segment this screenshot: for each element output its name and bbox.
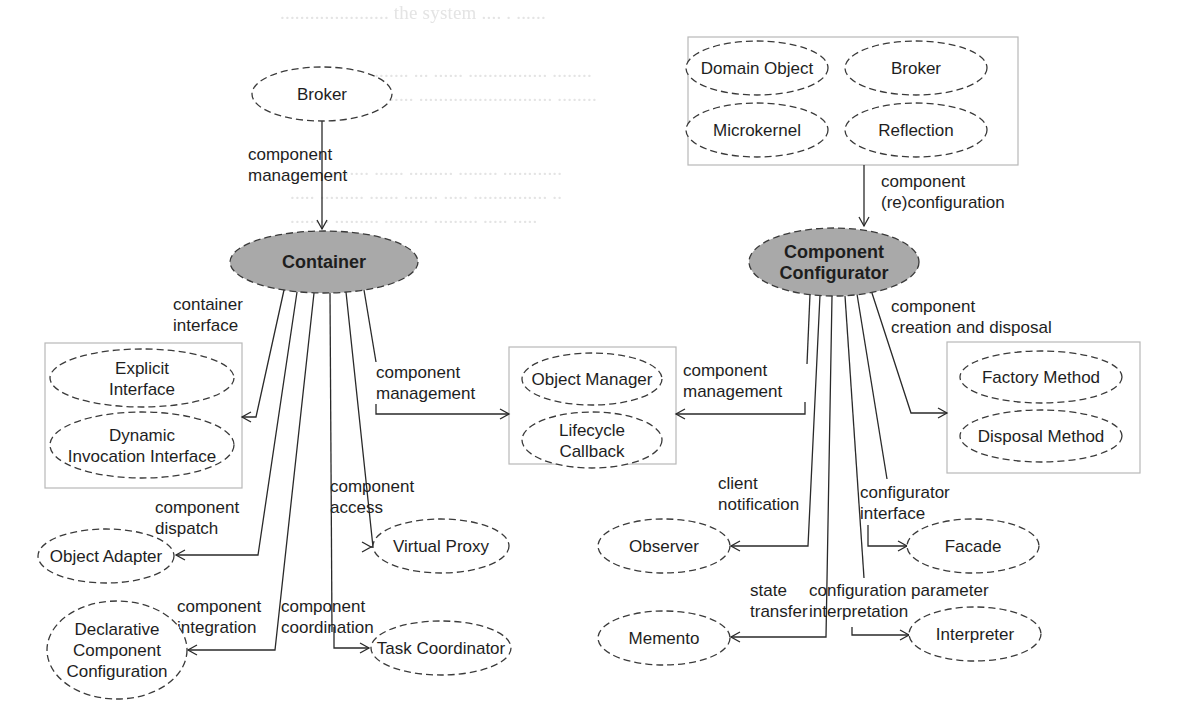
node-facade: Facade [907, 519, 1039, 573]
node-label: Disposal Method [978, 427, 1105, 446]
node-object-manager: Object Manager [522, 353, 662, 405]
edge-container-interface [242, 290, 284, 422]
edge-configurator-management [807, 294, 810, 364]
node-label: Task Coordinator [377, 639, 506, 658]
broker-container-label: componentmanagement [248, 145, 348, 185]
node-disposal-method: Disposal Method [960, 410, 1122, 462]
node-reflection: Reflection [845, 103, 987, 157]
node-broker-top: Broker [252, 67, 392, 121]
pattern-relationship-diagram: componentmanagementcomponent(re)configur… [0, 0, 1181, 725]
node-observer: Observer [598, 519, 730, 573]
connector-line [857, 294, 887, 479]
node-label: Factory Method [982, 368, 1100, 387]
node-label: Microkernel [713, 121, 801, 140]
container-coordination-label: componentcoordination [281, 597, 374, 637]
configurator-state-label: statetransfer [750, 581, 808, 621]
node-label: Container [282, 252, 366, 272]
node-explicit-interface: ExplicitInterface [50, 349, 234, 407]
configurator-creation-label: componentcreation and disposal [891, 297, 1052, 337]
node-label: Virtual Proxy [393, 537, 490, 556]
configurator-interface-label: configuratorinterface [860, 483, 950, 523]
edge-interface-facade [868, 525, 907, 551]
container-dispatch-label: componentdispatch [155, 498, 239, 538]
connector-line [242, 290, 284, 417]
node-label: Facade [945, 537, 1002, 556]
node-memento: Memento [598, 611, 730, 665]
configurator-management-label: componentmanagement [683, 361, 783, 401]
edge-reconfiguration [859, 165, 869, 226]
node-label: Domain Object [701, 59, 814, 78]
edge-parameter-interpreter [852, 627, 909, 640]
edge-configurator-interface [857, 294, 887, 479]
node-label: ComponentConfigurator [780, 242, 889, 283]
node-label: Interpreter [936, 625, 1015, 644]
node-factory-method: Factory Method [960, 351, 1122, 403]
reconfiguration-label: component(re)configuration [881, 172, 1005, 212]
node-label: Observer [629, 537, 699, 556]
container-access-label: componentaccess [330, 477, 414, 517]
pattern-ellipse [50, 412, 234, 478]
node-label: Reflection [878, 121, 954, 140]
connector-line [376, 404, 509, 414]
container-management-label: componentmanagement [376, 363, 476, 403]
connector-line [807, 294, 810, 364]
edge-configurator-parameter [845, 296, 864, 578]
node-label: Object Manager [532, 370, 653, 389]
connector-line [845, 296, 864, 578]
node-task-coordinator: Task Coordinator [371, 621, 511, 675]
connector-line [676, 402, 805, 414]
container-integration-label: componentintegration [177, 597, 261, 637]
node-interpreter: Interpreter [909, 607, 1041, 661]
node-dynamic-invocation-interface: DynamicInvocation Interface [50, 412, 234, 478]
node-virtual-proxy: Virtual Proxy [373, 519, 509, 573]
arrowhead-icon [362, 542, 371, 552]
node-label: Broker [891, 59, 941, 78]
connector-line [852, 627, 909, 635]
node-lifecycle-callback: LifecycleCallback [522, 412, 662, 468]
edge-container-coordination [330, 293, 332, 632]
node-object-adapter: Object Adapter [38, 529, 174, 583]
node-component-configurator: ComponentConfigurator [749, 228, 919, 296]
connector-line [330, 293, 332, 632]
node-microkernel: Microkernel [686, 103, 828, 157]
node-container: Container [230, 231, 418, 293]
node-domain-object: Domain Object [686, 41, 828, 95]
node-label: DeclarativeComponentConfiguration [66, 620, 167, 681]
configurator-notification-label: clientnotification [718, 474, 799, 514]
edge-management-lifecycle [676, 402, 805, 419]
node-label: Broker [297, 85, 347, 104]
edge-management-objectmgr [376, 404, 509, 419]
node-label: Memento [629, 629, 700, 648]
node-label: Object Adapter [50, 547, 163, 566]
node-broker-right: Broker [845, 41, 987, 95]
container-interface-label: containerinterface [173, 295, 243, 335]
connector-line [364, 290, 376, 362]
node-declarative-component-configuration: DeclarativeComponentConfiguration [47, 601, 187, 699]
edge-container-management [364, 290, 376, 362]
